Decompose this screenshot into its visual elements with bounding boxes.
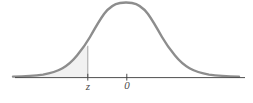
tick-label-zero: 0 bbox=[119, 80, 135, 91]
tick-label-z: z bbox=[80, 81, 96, 92]
normal-distribution-figure: z 0 bbox=[0, 0, 253, 103]
bell-curve bbox=[13, 3, 239, 77]
